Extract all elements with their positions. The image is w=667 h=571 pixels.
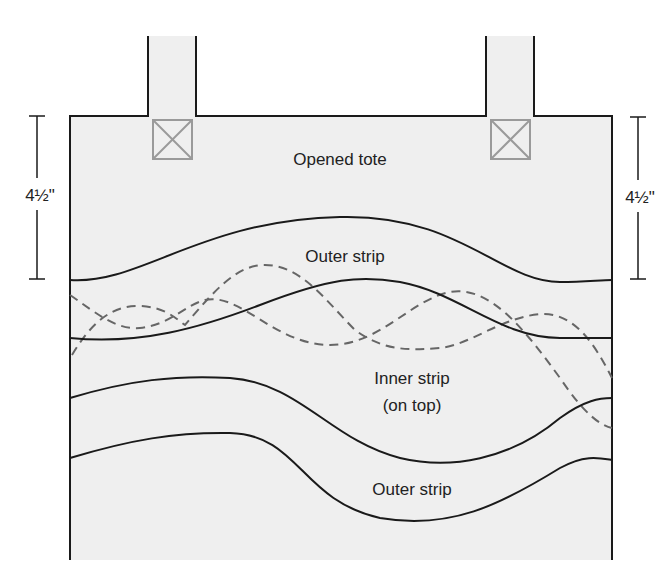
opened-tote-label: Opened tote xyxy=(293,150,387,169)
inner-strip-label-line1: Inner strip xyxy=(374,369,450,388)
inner-strip-label-line2: (on top) xyxy=(383,396,442,415)
outer-strip-top-label: Outer strip xyxy=(305,247,384,266)
left-dimension-label: 4½" xyxy=(25,186,55,205)
right-dimension-label: 4½" xyxy=(625,188,655,207)
outer-strip-bottom-label: Outer strip xyxy=(372,480,451,499)
tote-strip-diagram: Opened tote Outer strip Inner strip (on … xyxy=(0,0,667,571)
tote-body xyxy=(70,36,612,560)
